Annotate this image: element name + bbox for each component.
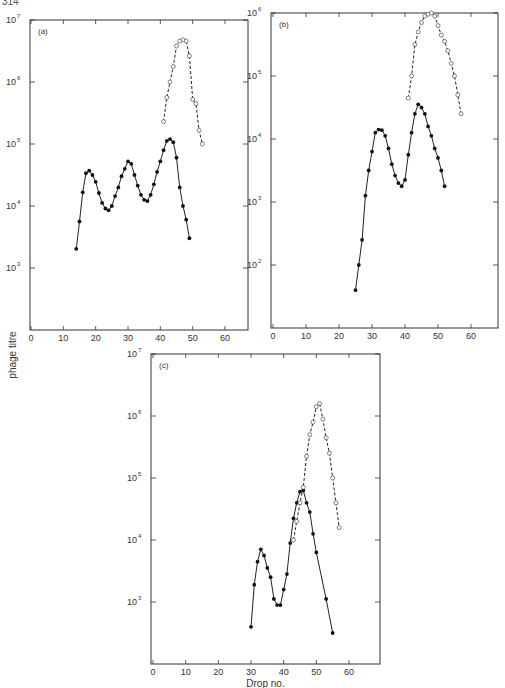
data-point-filled [387,147,391,151]
data-point-filled [259,547,263,551]
panel-c: (c)0102030405060103104105106107Drop no. [127,347,380,688]
data-point-filled [275,603,279,607]
y-tick-label: 10 [6,15,16,25]
data-point-filled [129,162,133,166]
x-tick-label: 20 [91,333,101,343]
figure: (a)0102030405060103104105106107phage tit… [0,0,505,688]
data-point-filled [74,247,78,251]
data-point-filled [136,184,140,188]
data-point-filled [100,201,104,205]
panel-b: (b)0102030405060102103104105106 [247,6,498,341]
data-point-filled [269,575,273,579]
panel-label: (c) [159,361,169,370]
data-point-filled [184,218,188,222]
panel-a: (a)0102030405060103104105106107phage tit… [6,13,248,379]
x-axis-title: Drop no. [246,678,284,688]
data-point-open [197,128,201,132]
data-point-filled [324,597,328,601]
y-tick-label: 10 [127,349,137,359]
data-point-filled [168,137,172,141]
data-point-open [439,33,443,37]
x-tick-label: 50 [433,331,443,341]
y-tick-label: 10 [247,197,257,207]
data-point-filled [354,288,358,292]
y-tick-exponent: 6 [17,75,21,81]
data-point-filled [97,191,101,195]
y-tick-label: 10 [247,134,257,144]
data-point-open [200,142,204,146]
plot-frame [151,354,380,664]
data-point-open [410,74,414,78]
data-point-open [162,120,166,124]
data-point-filled [383,134,387,138]
data-point-filled [393,174,397,178]
data-point-filled [400,184,404,188]
data-point-filled [87,169,91,173]
y-tick-exponent: 2 [258,258,262,264]
data-point-filled [175,156,179,160]
data-point-open [318,402,322,406]
data-point-filled [123,167,127,171]
data-point-filled [292,516,296,520]
y-tick-exponent: 7 [138,347,142,353]
data-point-open [298,501,302,505]
data-point-open [311,420,315,424]
x-tick-label: 0 [28,333,33,343]
series-line-filled [251,490,333,633]
data-point-filled [308,510,312,514]
data-point-filled [155,170,159,174]
data-point-open [420,20,424,24]
data-point-open [446,49,450,53]
data-point-open [165,96,169,100]
data-point-filled [439,169,443,173]
data-point-filled [110,204,114,208]
x-tick-label: 60 [466,331,476,341]
data-point-open [308,433,312,437]
data-point-open [406,96,410,100]
y-tick-exponent: 5 [258,69,262,75]
x-tick-label: 10 [181,667,191,677]
data-point-filled [256,560,260,564]
y-tick-exponent: 4 [17,199,21,205]
x-tick-label: 30 [123,333,133,343]
x-tick-label: 40 [155,333,165,343]
data-point-filled [314,551,318,555]
data-point-open [436,24,440,28]
y-tick-exponent: 5 [17,137,21,143]
y-tick-label: 10 [127,535,137,545]
x-tick-label: 40 [400,331,410,341]
data-point-filled [158,159,162,163]
data-point-open [459,112,463,116]
data-point-filled [139,193,143,197]
x-tick-label: 10 [58,333,68,343]
data-point-filled [94,180,98,184]
data-point-open [175,44,179,48]
data-point-open [305,454,309,458]
data-point-filled [410,131,414,135]
data-point-filled [120,174,124,178]
y-tick-exponent: 6 [258,6,262,12]
data-point-open [433,14,437,18]
plot-frame [271,13,498,328]
data-point-filled [360,238,364,242]
x-tick-label: 20 [334,331,344,341]
y-tick-label: 10 [127,411,137,421]
data-point-filled [367,169,371,173]
data-point-open [321,417,325,421]
x-tick-label: 10 [301,331,311,341]
data-point-open [416,30,420,34]
y-tick-exponent: 3 [17,261,21,267]
data-point-filled [397,181,401,185]
data-point-filled [420,106,424,110]
data-point-filled [126,159,130,163]
data-point-filled [265,566,269,570]
data-point-open [331,476,335,480]
data-point-open [314,405,318,409]
x-tick-label: 50 [188,333,198,343]
data-point-filled [152,182,156,186]
data-point-filled [84,171,88,175]
data-point-filled [416,102,420,106]
data-point-open [334,501,338,505]
data-point-filled [188,236,192,240]
y-tick-label: 10 [6,201,16,211]
